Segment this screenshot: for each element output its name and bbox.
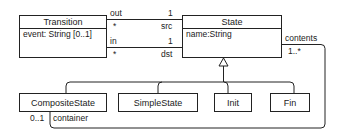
class-name: SimpleState <box>134 98 183 108</box>
mult-contents: 1..* <box>288 47 301 56</box>
class-simple-state[interactable]: SimpleState <box>118 93 198 112</box>
role-contents: contents <box>285 34 317 43</box>
class-name: Fin <box>284 98 297 108</box>
role-dst: dst <box>161 50 172 59</box>
class-composite-state[interactable]: CompositeState <box>19 93 107 112</box>
mult-in-left: * <box>113 50 116 59</box>
role-out: out <box>110 9 122 18</box>
mult-out-left: * <box>113 22 116 31</box>
class-transition[interactable]: Transition event: String [0..1] <box>19 15 107 58</box>
generalization-bus <box>66 82 294 93</box>
mult-in-right: 1 <box>168 37 173 46</box>
mult-container: 0..1 <box>30 114 44 123</box>
class-attribute: name:String <box>183 28 281 59</box>
role-in: in <box>110 37 117 46</box>
class-state[interactable]: State name:String <box>182 15 282 58</box>
mult-out-right: 1 <box>168 9 173 18</box>
generalization-triangle-icon <box>219 58 228 66</box>
class-name: State <box>183 16 281 28</box>
class-name: Init <box>227 98 239 108</box>
class-name: CompositeState <box>31 98 95 108</box>
class-name: Transition <box>20 16 106 28</box>
class-attribute: event: String [0..1] <box>20 28 106 59</box>
role-container: container <box>53 114 88 123</box>
class-fin[interactable]: Fin <box>270 93 310 112</box>
role-src: src <box>161 22 172 31</box>
class-init[interactable]: Init <box>214 93 252 112</box>
